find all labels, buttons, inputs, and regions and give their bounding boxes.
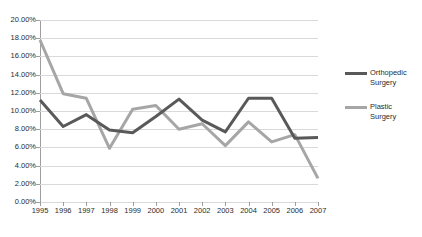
legend-label-orthopedic-line1: Orthopedic xyxy=(370,68,407,78)
y-tick-mark xyxy=(36,56,40,57)
x-axis-labels: 1995199619971998199920002001200220032004… xyxy=(40,206,318,220)
x-tick-mark xyxy=(110,202,111,206)
y-tick-label: 2.00% xyxy=(0,180,36,188)
x-tick-label: 1998 xyxy=(101,206,118,216)
plot-area xyxy=(40,20,318,202)
y-tick-label: 12.00% xyxy=(0,89,36,97)
x-tick-label: 1997 xyxy=(78,206,95,216)
y-tick-label: 0.00% xyxy=(0,198,36,206)
series-line-orthopedic xyxy=(40,98,318,138)
legend-swatch-orthopedic xyxy=(345,72,367,75)
y-tick-label: 14.00% xyxy=(0,71,36,79)
x-tick-label: 2001 xyxy=(171,206,188,216)
x-tick-mark xyxy=(202,202,203,206)
legend-swatch-plastic xyxy=(345,106,367,109)
legend-label-orthopedic-line2: Surgery xyxy=(370,78,407,88)
x-tick-label: 2007 xyxy=(310,206,327,216)
y-tick-label: 18.00% xyxy=(0,34,36,42)
x-tick-label: 1995 xyxy=(32,206,49,216)
y-tick-mark xyxy=(36,166,40,167)
y-axis-labels: 0.00%2.00%4.00%6.00%8.00%10.00%12.00%14.… xyxy=(0,20,36,202)
x-tick-label: 2002 xyxy=(194,206,211,216)
y-tick-label: 20.00% xyxy=(0,16,36,24)
x-tick-mark xyxy=(179,202,180,206)
x-tick-mark xyxy=(249,202,250,206)
y-tick-label: 4.00% xyxy=(0,162,36,170)
y-tick-mark xyxy=(36,111,40,112)
x-tick-label: 2004 xyxy=(240,206,257,216)
y-tick-mark xyxy=(36,38,40,39)
y-tick-label: 6.00% xyxy=(0,143,36,151)
legend-label-plastic-line1: Plastic xyxy=(370,102,396,112)
y-tick-mark xyxy=(36,129,40,130)
legend-item-plastic[interactable]: Plastic Surgery xyxy=(345,102,422,122)
legend-label-orthopedic: Orthopedic Surgery xyxy=(370,68,407,88)
chart-legend: Orthopedic Surgery Plastic Surgery xyxy=(345,68,422,136)
x-tick-label: 2003 xyxy=(217,206,234,216)
y-tick-mark xyxy=(36,93,40,94)
x-tick-mark xyxy=(295,202,296,206)
x-tick-mark xyxy=(318,202,319,206)
y-tick-mark xyxy=(36,75,40,76)
x-tick-label: 1999 xyxy=(124,206,141,216)
y-tick-mark xyxy=(36,20,40,21)
x-tick-mark xyxy=(133,202,134,206)
series-lines xyxy=(40,20,318,202)
legend-label-plastic: Plastic Surgery xyxy=(370,102,396,122)
y-tick-label: 10.00% xyxy=(0,107,36,115)
x-tick-mark xyxy=(156,202,157,206)
x-tick-label: 2006 xyxy=(286,206,303,216)
line-chart: 0.00%2.00%4.00%6.00%8.00%10.00%12.00%14.… xyxy=(0,0,422,237)
legend-item-orthopedic[interactable]: Orthopedic Surgery xyxy=(345,68,422,88)
x-tick-label: 2000 xyxy=(147,206,164,216)
y-tick-label: 16.00% xyxy=(0,52,36,60)
y-tick-mark xyxy=(36,147,40,148)
y-tick-label: 8.00% xyxy=(0,125,36,133)
x-tick-mark xyxy=(63,202,64,206)
x-tick-mark xyxy=(272,202,273,206)
x-tick-label: 1996 xyxy=(55,206,72,216)
y-tick-mark xyxy=(36,184,40,185)
x-tick-mark xyxy=(86,202,87,206)
x-tick-mark xyxy=(40,202,41,206)
x-tick-mark xyxy=(225,202,226,206)
x-tick-label: 2005 xyxy=(263,206,280,216)
legend-label-plastic-line2: Surgery xyxy=(370,112,396,122)
